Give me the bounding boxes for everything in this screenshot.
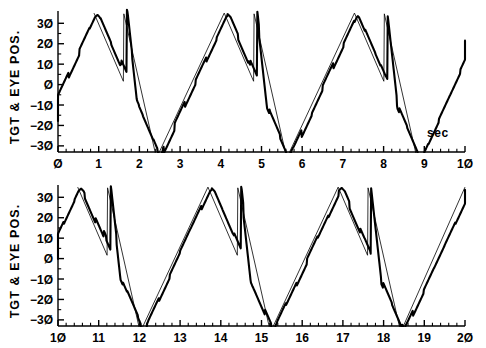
plot-area-top: Ø1234567891Ø3Ø2Ø1ØØ−1Ø−2Ø−3Ø xyxy=(0,0,486,174)
plot-svg-top: Ø1234567891Ø3Ø2Ø1ØØ−1Ø−2Ø−3Ø xyxy=(0,0,486,174)
x-tick-label: 3 xyxy=(177,157,184,171)
x-tick-label: 14 xyxy=(214,331,228,345)
x-tick-label: Ø xyxy=(53,157,62,171)
series-eye xyxy=(58,10,465,157)
y-tick-label: −2Ø xyxy=(30,293,53,307)
y-tick-label: −3Ø xyxy=(30,139,53,153)
y-tick-label: 2Ø xyxy=(37,211,53,225)
x-tick-label: 12 xyxy=(133,331,147,345)
y-tick-label: −3Ø xyxy=(30,313,53,327)
chart-panel-bottom: TGT & EYE POS. 1Ø1112131415161718192Ø3Ø2… xyxy=(0,174,486,348)
x-tick-label: 19 xyxy=(418,331,432,345)
y-tick-label: 3Ø xyxy=(37,17,53,31)
x-tick-label: 1 xyxy=(95,157,102,171)
y-tick-label: 2Ø xyxy=(37,37,53,51)
y-tick-label: 1Ø xyxy=(37,232,53,246)
x-tick-label: 15 xyxy=(255,331,269,345)
x-axis-unit-label: sec xyxy=(427,126,449,140)
y-tick-label: −1Ø xyxy=(30,273,53,287)
x-tick-label: 1Ø xyxy=(457,157,473,171)
x-tick-label: 1Ø xyxy=(50,331,66,345)
x-tick-label: 2 xyxy=(136,157,143,171)
x-tick-label: 13 xyxy=(173,331,187,345)
x-tick-label: 18 xyxy=(377,331,391,345)
plot-svg-bottom: 1Ø1112131415161718192Ø3Ø2Ø1ØØ−1Ø−2Ø−3Ø xyxy=(0,174,486,348)
x-tick-label: 9 xyxy=(421,157,428,171)
y-tick-label: 1Ø xyxy=(37,58,53,72)
y-tick-label: −2Ø xyxy=(30,119,53,133)
x-tick-label: 4 xyxy=(217,157,224,171)
x-tick-label: 2Ø xyxy=(457,331,473,345)
x-tick-label: 8 xyxy=(380,157,387,171)
x-tick-label: 16 xyxy=(296,331,310,345)
x-tick-label: 5 xyxy=(258,157,265,171)
x-tick-label: 11 xyxy=(92,331,105,345)
y-tick-label: 3Ø xyxy=(37,191,53,205)
y-tick-label: Ø xyxy=(44,78,53,92)
chart-panel-top: TGT & EYE POS. Ø1234567891Ø3Ø2Ø1ØØ−1Ø−2Ø… xyxy=(0,0,486,174)
y-tick-label: Ø xyxy=(44,252,53,266)
x-tick-label: 7 xyxy=(340,157,347,171)
x-tick-label: 17 xyxy=(336,331,350,345)
x-tick-label: 6 xyxy=(299,157,306,171)
figure-root: TGT & EYE POS. Ø1234567891Ø3Ø2Ø1ØØ−1Ø−2Ø… xyxy=(0,0,486,348)
series-eye xyxy=(58,186,465,331)
plot-area-bottom: 1Ø1112131415161718192Ø3Ø2Ø1ØØ−1Ø−2Ø−3Ø xyxy=(0,174,486,348)
y-tick-label: −1Ø xyxy=(30,99,53,113)
